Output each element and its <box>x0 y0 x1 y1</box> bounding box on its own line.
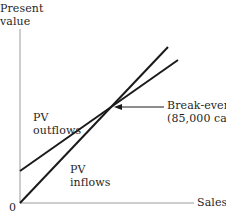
pv-inflows-label-line2: inflows <box>70 176 111 189</box>
y-axis-label-line2: value <box>0 15 44 28</box>
y-axis-label: Present value <box>0 2 44 28</box>
origin-label: 0 <box>9 201 16 214</box>
break-even-chart: Present value Sales 0 PV outflows PV inf… <box>0 0 226 216</box>
break-even-annotation-line1: Break-even <box>167 99 226 112</box>
pv-inflows-label: PV inflows <box>70 163 111 189</box>
break-even-annotation: Break-even (85,000 cars) <box>167 99 226 125</box>
pv-outflows-label-line2: outflows <box>33 124 81 137</box>
pv-inflows-label-line1: PV <box>70 163 111 176</box>
y-axis-label-line1: Present <box>0 2 44 15</box>
pv-outflows-label: PV outflows <box>33 111 81 137</box>
x-axis-label: Sales <box>197 196 226 209</box>
pv-outflows-label-line1: PV <box>33 111 81 124</box>
break-even-annotation-line2: (85,000 cars) <box>167 112 226 125</box>
